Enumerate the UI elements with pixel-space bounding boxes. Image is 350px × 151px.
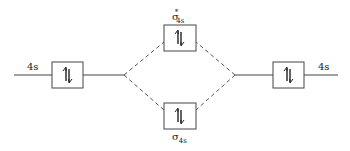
right-orbital-box (273, 62, 304, 88)
bonding-orbital: σ4s (164, 103, 196, 145)
antibonding-orbital-box (164, 25, 196, 51)
antibonding-orbital: σ*4s (164, 8, 196, 51)
left-to-bonding-dash (124, 75, 164, 110)
left-orbital-label: 4s (27, 61, 39, 72)
bonding-label: σ4s (172, 131, 187, 145)
right-orbital-label: 4s (318, 61, 330, 72)
left-atomic-orbital: 4s (14, 61, 124, 88)
left-orbital-box (52, 62, 83, 88)
left-to-antibonding-dash (124, 42, 164, 75)
right-to-bonding-dash (196, 75, 235, 110)
right-to-antibonding-dash (196, 42, 235, 75)
antibonding-label: σ*4s (172, 8, 185, 25)
right-atomic-orbital: 4s (235, 61, 338, 88)
mo-diagram: 4s σ*4s σ (0, 0, 350, 151)
bonding-orbital-box (164, 103, 196, 129)
